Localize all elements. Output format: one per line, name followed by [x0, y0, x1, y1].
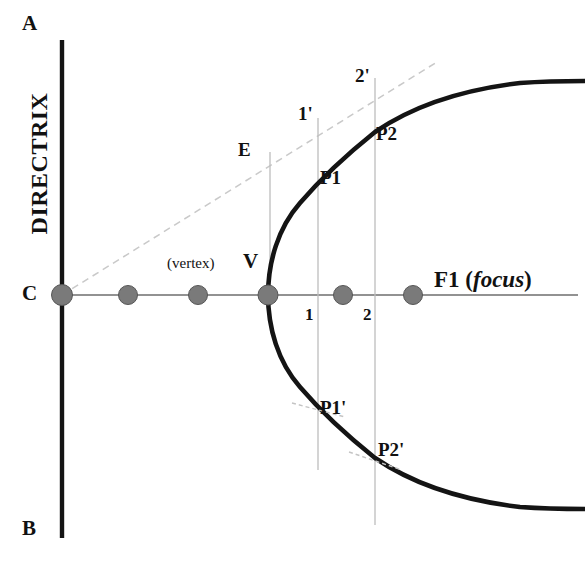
focus-word: focus — [473, 267, 524, 292]
axis-dot-c — [52, 285, 73, 306]
label-p2-prime: P2' — [378, 440, 404, 459]
vertex-note: (vertex) — [167, 256, 214, 271]
axis-dot-3 — [334, 286, 353, 305]
axis-dot-vertex — [258, 285, 278, 305]
label-a: A — [22, 13, 37, 34]
label-p2: P2 — [376, 124, 397, 143]
focus-suffix: ) — [524, 267, 532, 292]
parabola-diagram: DIRECTRIX A B C (vertex) V E F1 (focus) … — [0, 0, 585, 564]
axis-dot-1 — [119, 286, 138, 305]
label-b: B — [22, 518, 36, 539]
label-vertex: V — [243, 251, 258, 272]
tick-label-1-prime: 1' — [298, 104, 313, 123]
axis-dot-focus — [404, 286, 423, 305]
parabola-upper-branch — [268, 81, 585, 296]
label-e: E — [238, 140, 251, 159]
focus-prefix: F1 ( — [434, 267, 473, 292]
tick-label-2-prime: 2' — [355, 66, 370, 85]
label-c: C — [22, 283, 37, 304]
parabola-lower-branch — [268, 294, 585, 509]
label-p1: P1 — [320, 168, 341, 187]
directrix-label: DIRECTRIX — [26, 89, 53, 239]
tick-label-1: 1 — [305, 306, 314, 323]
tick-label-2: 2 — [363, 306, 372, 323]
label-focus: F1 (focus) — [434, 268, 532, 291]
label-p1-prime: P1' — [320, 398, 346, 417]
axis-dot-2 — [189, 286, 208, 305]
